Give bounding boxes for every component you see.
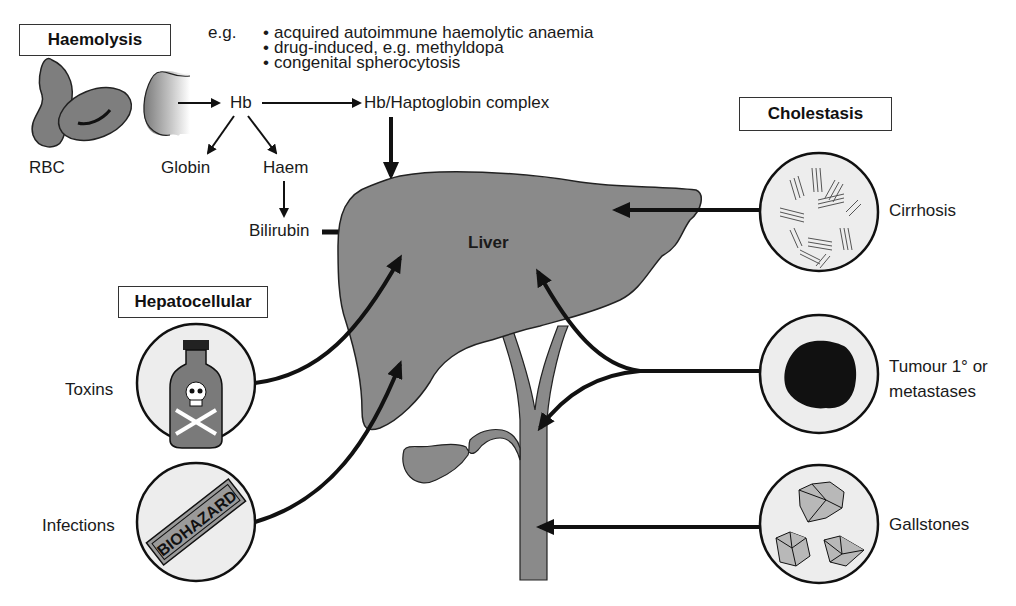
- arrow-hb-to-haem: [248, 116, 276, 153]
- haem-label: Haem: [263, 159, 308, 177]
- cirrhosis-label: Cirrhosis: [889, 202, 956, 220]
- bilirubin-label: Bilirubin: [249, 222, 309, 240]
- cirrhosis-circle: [760, 153, 878, 271]
- gallbladder-icon: [403, 429, 520, 482]
- tumour-mass-icon: [784, 341, 856, 409]
- bile-duct-icon: [498, 322, 568, 580]
- tumour-label-line1: Tumour 1° or: [889, 358, 988, 376]
- infections-label: Infections: [42, 517, 115, 535]
- haemolysis-examples-list: e.g. • acquired autoimmune haemolytic an…: [208, 25, 593, 70]
- hb-haptoglobin-complex-label: Hb/Haptoglobin complex: [364, 94, 549, 112]
- globin-label: Globin: [161, 159, 210, 177]
- gallstones-label: Gallstones: [889, 516, 969, 534]
- rbc-label: RBC: [29, 159, 65, 177]
- hepatocellular-category-label: Hepatocellular: [118, 286, 268, 318]
- example-item: congenital spherocytosis: [274, 55, 460, 70]
- arrow-tumour-to-duct: [540, 371, 640, 428]
- gallstones-circle: [760, 465, 878, 583]
- hb-label: Hb: [230, 94, 252, 112]
- toxins-label: Toxins: [65, 381, 113, 399]
- liver-label: Liver: [468, 234, 509, 252]
- bullet: •: [263, 55, 274, 70]
- arrow-hb-to-globin: [208, 116, 234, 153]
- haemolysis-category-label: Haemolysis: [19, 24, 171, 56]
- cholestasis-category-label: Cholestasis: [739, 97, 892, 131]
- rbc-icon: [32, 59, 139, 151]
- tumour-label-line2: metastases: [889, 383, 976, 401]
- examples-prefix: e.g.: [208, 25, 263, 40]
